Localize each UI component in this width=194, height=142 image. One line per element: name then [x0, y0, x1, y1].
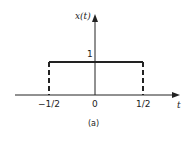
x-axis-arrow-icon — [172, 92, 180, 98]
y-tick-1: 1 — [87, 50, 93, 59]
x-tick-zero: 0 — [92, 100, 98, 109]
x-tick-half: 1/2 — [136, 100, 150, 109]
x-tick-neg-half: −1/2 — [38, 100, 60, 109]
figure-caption: (a) — [88, 120, 99, 128]
y-axis-label: x(t) — [75, 12, 91, 21]
x-axis-label: t — [177, 101, 181, 110]
y-axis-arrow-icon — [92, 14, 98, 22]
